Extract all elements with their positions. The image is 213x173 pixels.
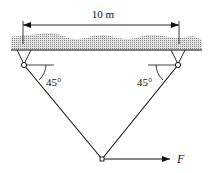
left-angle-label: 45° bbox=[46, 76, 61, 88]
force-label: F bbox=[176, 152, 185, 166]
truss-diagram: 10 m 45° 45° F bbox=[0, 0, 213, 173]
bottom-joint bbox=[100, 157, 104, 161]
left-pin bbox=[21, 62, 26, 67]
ceiling bbox=[11, 33, 202, 50]
left-member bbox=[24, 65, 102, 159]
right-angle-label: 45° bbox=[137, 76, 152, 88]
dimension-label: 10 m bbox=[92, 8, 115, 20]
right-pin bbox=[175, 62, 180, 67]
